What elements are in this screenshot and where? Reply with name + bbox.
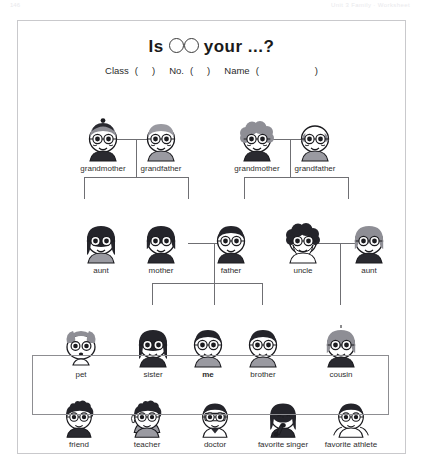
figure-grandmother-maternal: grandmother: [76, 117, 130, 173]
woman-bob-dark-icon: [134, 219, 188, 265]
man-curly-beard-icon: [276, 219, 330, 265]
figure-mother: mother: [134, 219, 188, 275]
woman-bob-grey-icon: [342, 219, 396, 265]
figure-label: friend: [46, 440, 112, 449]
figure-uncle: uncle: [276, 219, 330, 275]
figure-label: aunt: [74, 266, 128, 275]
figure-grandfather-paternal: grandfather: [288, 117, 342, 173]
connector: [340, 243, 341, 305]
figure-label: grandmother: [76, 164, 130, 173]
figure-aunt-maternal: aunt: [74, 219, 128, 275]
worksheet-sheet: Isyour ...? Class()No.()Name(): [17, 20, 406, 454]
man-short-dark-icon: [204, 219, 258, 265]
figure-label: teacher: [114, 440, 180, 449]
old-man-bald-icon: [288, 117, 342, 163]
page-header-strip: 146 Unit 3 Family · Worksheet: [0, 0, 424, 14]
connector: [152, 283, 262, 284]
connector: [244, 177, 245, 199]
figure-label: grandfather: [288, 164, 342, 173]
figure-label: favorite singer: [250, 440, 316, 449]
figure-label: grandmother: [230, 164, 284, 173]
figure-aunt-paternal: aunt: [342, 219, 396, 275]
figure-grandfather-maternal: grandfather: [134, 117, 188, 173]
connector: [188, 177, 189, 199]
old-woman-curly-icon: [230, 117, 284, 163]
connector: [214, 283, 215, 305]
connector: [152, 283, 153, 305]
figure-label: grandfather: [134, 164, 188, 173]
woman-long-hair-icon: [74, 219, 128, 265]
figure-father: father: [204, 219, 258, 275]
figure-label: uncle: [276, 266, 330, 275]
figure-label: favorite athlete: [318, 440, 384, 449]
connector: [244, 177, 348, 178]
other-people-box: [32, 355, 389, 415]
figure-label: mother: [134, 266, 188, 275]
connector: [262, 283, 263, 305]
connector: [84, 177, 85, 199]
page-header-text: Unit 3 Family · Worksheet: [331, 2, 410, 8]
old-woman-beanie-icon: [76, 117, 130, 163]
page-number: 146: [10, 2, 20, 8]
figure-label: doctor: [182, 440, 248, 449]
old-man-glasses-icon: [134, 117, 188, 163]
connector: [348, 177, 349, 199]
figure-label: aunt: [342, 266, 396, 275]
figure-grandmother-paternal: grandmother: [230, 117, 284, 173]
connector: [84, 177, 188, 178]
figure-label: father: [204, 266, 258, 275]
